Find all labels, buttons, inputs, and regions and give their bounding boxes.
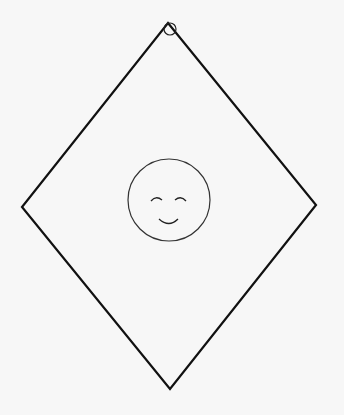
mouth: [159, 219, 178, 224]
smiley-face-icon: [128, 159, 210, 241]
diagram-canvas: [0, 0, 344, 415]
right-eye: [175, 198, 186, 201]
left-eye: [151, 198, 162, 201]
diamond-tag-outline: [22, 23, 316, 389]
